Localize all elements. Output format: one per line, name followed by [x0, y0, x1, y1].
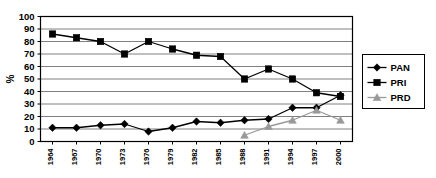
data-point-diamond	[169, 124, 176, 131]
chart-legend: PANPRIPRD	[363, 55, 425, 109]
data-point-square	[145, 38, 151, 44]
x-tick-label: 1967	[70, 149, 79, 166]
data-point-square	[241, 76, 247, 82]
y-tick-label: 10	[24, 123, 35, 134]
y-axis-title: %	[5, 74, 16, 83]
data-series-layer	[49, 31, 345, 138]
series-line	[53, 95, 341, 131]
x-tick-label: 1970	[94, 149, 103, 166]
x-tick-label: 1994	[286, 148, 295, 166]
x-tick-label: 1991	[262, 149, 271, 166]
data-point-triangle	[337, 116, 345, 123]
x-tick-label: 1964	[46, 148, 55, 166]
x-tick-label: 1982	[190, 149, 199, 166]
data-point-square	[217, 53, 223, 59]
x-tick-label: 1973	[118, 149, 127, 166]
y-tick-label: 90	[24, 23, 35, 34]
data-point-square	[337, 93, 343, 99]
data-point-square	[73, 35, 79, 41]
y-tick-label: 50	[24, 73, 35, 84]
data-point-diamond	[217, 119, 224, 126]
data-point-diamond	[97, 122, 104, 129]
x-tick-label: 1988	[238, 149, 247, 166]
data-point-square	[289, 76, 295, 82]
data-point-diamond	[289, 104, 296, 111]
legend-label: PRD	[391, 92, 411, 103]
data-point-square	[97, 38, 103, 44]
data-point-diamond	[193, 118, 200, 125]
y-tick-label: 70	[24, 48, 35, 59]
x-axis-tick-labels: 1964196719701973197619791982198519881991…	[46, 148, 343, 166]
y-tick-label: 30	[24, 98, 35, 109]
chart-container: 0102030405060708090100 19641967197019731…	[0, 0, 436, 178]
data-point-diamond	[121, 120, 128, 127]
gridlines	[41, 17, 353, 130]
y-tick-label: 40	[24, 86, 35, 97]
y-tick-label: 100	[19, 11, 35, 22]
data-point-square	[193, 52, 199, 58]
y-tick-label: 60	[24, 61, 35, 72]
data-point-diamond	[241, 117, 248, 124]
data-point-square	[121, 51, 127, 57]
legend-label: PAN	[391, 62, 410, 73]
data-point-square	[265, 66, 271, 72]
line-chart: 0102030405060708090100 19641967197019731…	[0, 0, 436, 178]
y-axis-tick-labels: 0102030405060708090100	[19, 11, 35, 147]
data-point-square	[49, 31, 55, 37]
x-tick-label: 1997	[310, 149, 319, 166]
x-tick-label: 1985	[214, 149, 223, 166]
y-tick-label: 0	[29, 136, 34, 147]
series-line	[53, 34, 341, 97]
x-tick-label: 2000	[334, 149, 343, 166]
y-tick-label: 80	[24, 36, 35, 47]
y-axis-title-text: %	[5, 74, 16, 83]
data-point-triangle	[289, 116, 297, 123]
x-tick-label: 1979	[166, 149, 175, 166]
data-point-diamond	[49, 124, 56, 131]
data-point-square	[169, 46, 175, 52]
data-point-diamond	[73, 124, 80, 131]
x-tick-label: 1976	[142, 149, 151, 166]
y-tick-label: 20	[24, 111, 35, 122]
legend-label: PRI	[391, 77, 407, 88]
data-point-square	[374, 79, 380, 85]
data-point-square	[313, 90, 319, 96]
